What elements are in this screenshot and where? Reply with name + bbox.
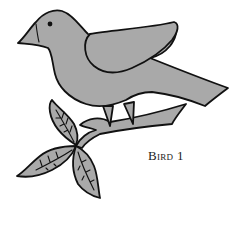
caption-label: Bird 1: [148, 148, 184, 164]
bird-illustration: [0, 0, 236, 251]
bird-eye: [48, 22, 53, 27]
leaf-left: [17, 146, 76, 177]
